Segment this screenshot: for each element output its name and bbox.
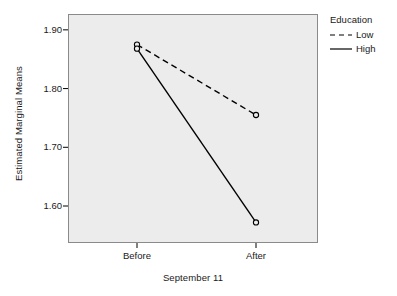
y-axis-title: Estimated Marginal Means [13,44,24,204]
y-tick-2: 1.80 [20,83,62,95]
x-tick-label-before: Before [102,250,172,261]
axis-ticks [63,30,256,248]
y-tick-1: 1.70 [20,141,62,153]
legend-label-low: Low [356,29,373,40]
y-tick-label-2: 1.80 [24,83,62,94]
legend-item-high: High [330,42,396,55]
legend-label-high: High [356,43,376,54]
legend-title: Education [330,14,396,25]
y-tick-label-3: 1.90 [24,24,62,35]
y-tick-label-1: 1.70 [24,141,62,152]
x-axis-title: September 11 [68,272,318,283]
x-tick-label-after: After [221,250,291,261]
series-lines [137,45,256,223]
legend-key-dashed-icon [330,30,352,40]
y-tick-0: 1.60 [20,200,62,212]
legend-key-solid-icon [330,44,352,54]
series-markers [134,42,258,225]
legend: Education Low High [330,14,396,55]
y-tick-label-0: 1.60 [24,200,62,211]
interaction-plot-figure: Estimated Marginal Means September 11 1.… [0,0,397,296]
y-tick-3: 1.90 [20,24,62,36]
legend-item-low: Low [330,28,396,41]
